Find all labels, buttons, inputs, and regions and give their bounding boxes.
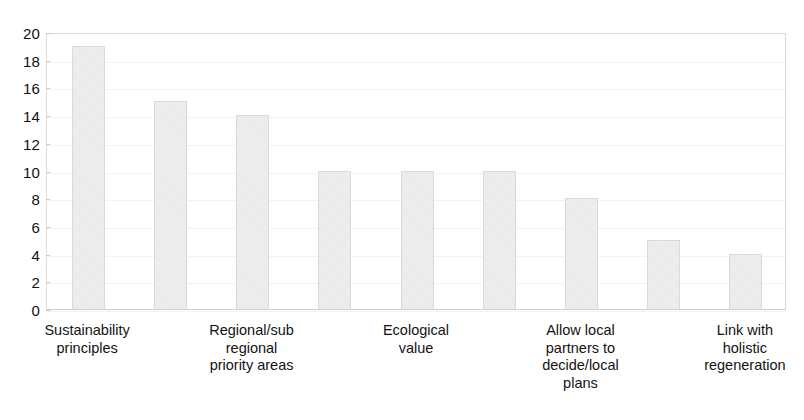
y-tick-mark [46, 282, 50, 283]
bar [154, 101, 187, 309]
y-tick-label: 6 [6, 220, 40, 235]
bar [729, 254, 762, 309]
y-tick-label: 12 [6, 137, 40, 152]
bar [565, 198, 598, 309]
y-tick-label: 18 [6, 54, 40, 69]
bar [647, 240, 680, 309]
y-tick-label: 16 [6, 81, 40, 96]
y-tick-mark [46, 172, 50, 173]
y-tick-label: 10 [6, 165, 40, 180]
bar [483, 171, 516, 310]
bar-chart: 20181614121086420 Sustainability princip… [0, 0, 804, 420]
y-tick-label: 14 [6, 109, 40, 124]
y-tick-label: 0 [6, 303, 40, 318]
bar [72, 46, 105, 309]
y-tick-mark [46, 61, 50, 62]
y-tick-mark [46, 199, 50, 200]
y-tick-mark [46, 144, 50, 145]
bar [236, 115, 269, 309]
y-tick-label: 20 [6, 26, 40, 41]
y-tick-label: 2 [6, 275, 40, 290]
y-axis: 20181614121086420 [0, 33, 40, 310]
bar [318, 171, 351, 310]
x-tick-label: Regional/sub regional priority areas [167, 322, 337, 375]
x-tick-label: Allow local partners to decide/local pla… [495, 322, 665, 392]
x-tick-label: Ecological value [331, 322, 501, 357]
gridline [47, 311, 785, 312]
y-tick-mark [46, 255, 50, 256]
y-tick-mark [46, 88, 50, 89]
x-tick-label: Sustainability principles [2, 322, 172, 357]
x-tick-label: Link with holistic regeneration [660, 322, 804, 375]
gridline [47, 89, 785, 90]
y-tick-mark [46, 310, 50, 311]
bar [401, 171, 434, 310]
y-tick-mark [46, 227, 50, 228]
y-tick-label: 8 [6, 192, 40, 207]
y-tick-mark [46, 33, 50, 34]
plot-area [46, 33, 786, 310]
y-tick-mark [46, 116, 50, 117]
gridline [47, 62, 785, 63]
y-tick-label: 4 [6, 248, 40, 263]
